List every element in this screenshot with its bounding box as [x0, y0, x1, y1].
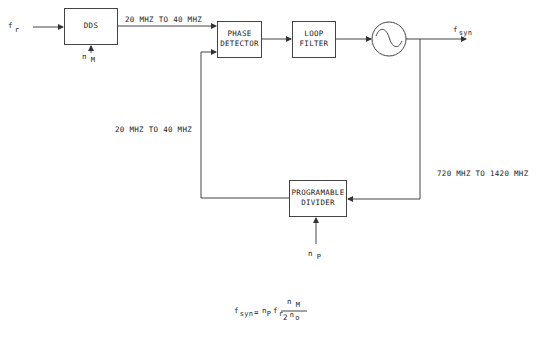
formula-numerator: nM [287, 298, 296, 306]
loop-filter-label: LOOP FILTER [292, 29, 336, 49]
dds-label: DDS [64, 21, 118, 31]
phase-detector-label: PHASE DETECTOR [217, 29, 262, 49]
vco-circle [372, 22, 406, 56]
feedback-freq-label: 20 MHZ TO 40 MHZ [115, 126, 192, 134]
formula-lhs: fsyn [234, 307, 252, 315]
np-label: nP [308, 250, 317, 258]
dds-to-pd-freq-label: 20 MHZ TO 40 MHZ [125, 16, 202, 24]
programmable-divider-label: PROGRAMABLE DIVIDER [288, 188, 348, 208]
formula-equals: = [254, 309, 259, 317]
formula-fr: fr [273, 307, 282, 315]
vco-freq-label: 720 MHZ TO 1420 MHZ [437, 170, 529, 178]
vco-to-divider-line [348, 39, 420, 199]
feedback-line [201, 52, 289, 198]
output-label: fsyn [453, 26, 471, 34]
nm-label: nM [82, 53, 91, 61]
sine-wave-icon [376, 29, 402, 46]
formula-denominator: 2no [283, 314, 297, 322]
reference-label: fr [8, 22, 17, 30]
formula-np: nP [262, 307, 271, 315]
